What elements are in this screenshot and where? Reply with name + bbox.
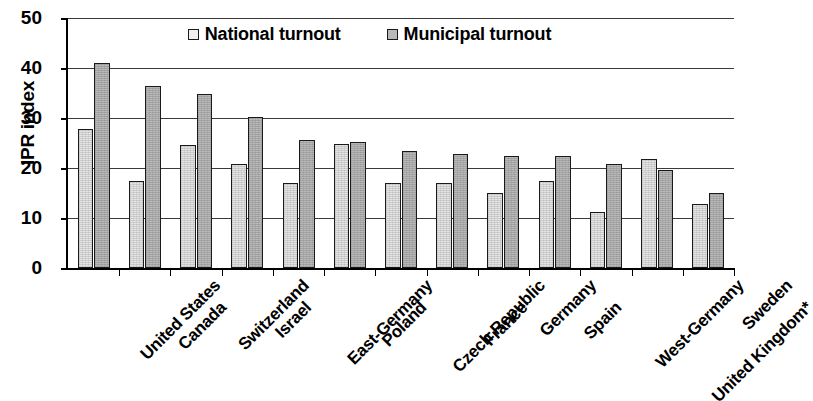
x-tick-label: Spain	[580, 298, 626, 344]
x-tick-label: West-Germany	[652, 276, 748, 372]
x-tick-label: East-Germany	[343, 276, 436, 369]
